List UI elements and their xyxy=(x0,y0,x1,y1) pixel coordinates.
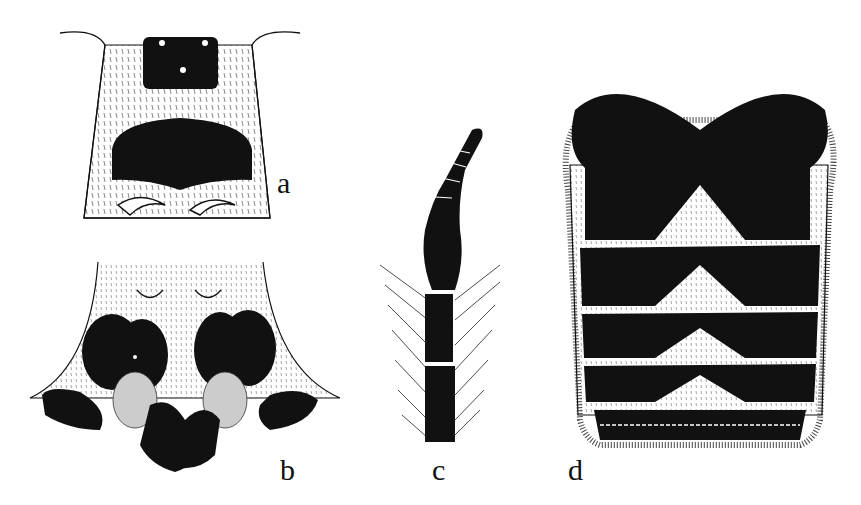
panel-a-drawing xyxy=(60,32,300,218)
panel-d-drawing xyxy=(566,94,834,445)
antenna-flagellum xyxy=(424,129,483,290)
figure-drawing xyxy=(0,0,861,505)
head-ventral xyxy=(30,262,340,398)
panel-label-b: b xyxy=(280,455,295,485)
panel-label-c: c xyxy=(432,455,445,485)
antenna-pedicel xyxy=(425,294,453,362)
panel-c-drawing xyxy=(380,129,500,442)
figure-plate: a b c d xyxy=(0,0,861,505)
panel-label-a: a xyxy=(277,168,290,198)
antenna-scape xyxy=(425,366,455,442)
panel-b-drawing xyxy=(30,262,340,472)
frons-patch xyxy=(112,118,252,190)
panel-label-d: d xyxy=(568,455,583,485)
